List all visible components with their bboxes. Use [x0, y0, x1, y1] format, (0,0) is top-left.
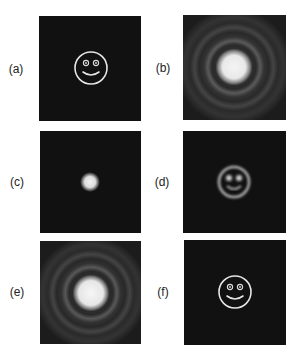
- bright-spot-icon: [40, 131, 141, 233]
- diffraction-rings-icon: [40, 241, 141, 344]
- smiley-face-icon: [39, 16, 141, 121]
- smiley-face-icon: [184, 240, 286, 345]
- panel-label-f: (f): [157, 285, 168, 299]
- panel-f-smiley-reconstruction: [184, 240, 286, 345]
- panel-label-d: (d): [155, 175, 170, 189]
- panel-label-a: (a): [9, 62, 24, 76]
- panel-e-diffraction-pattern: [40, 241, 141, 344]
- blurred-smiley-icon: [183, 131, 286, 233]
- panel-label-b: (b): [156, 61, 171, 75]
- panel-b-diffraction-pattern: [183, 15, 286, 120]
- panel-d-blurred-smiley: [183, 131, 286, 233]
- figure-grid: (a) (b): [0, 0, 298, 354]
- panel-c-bright-spot: [40, 131, 141, 233]
- panel-label-e: (e): [10, 285, 25, 299]
- diffraction-rings-icon: [183, 15, 286, 120]
- panel-label-c: (c): [10, 175, 24, 189]
- panel-a-smiley-object: [39, 16, 141, 121]
